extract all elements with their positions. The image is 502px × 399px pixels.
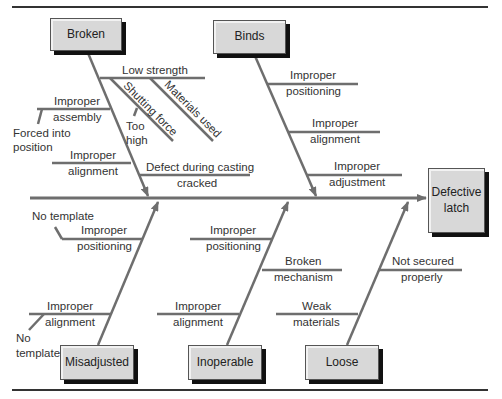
binds-alignment-2: alignment xyxy=(310,134,360,146)
cause-cracked: cracked xyxy=(177,178,217,190)
binds-positioning-1: Improper xyxy=(290,70,336,82)
binds-adjustment-2: adjustment xyxy=(329,177,385,189)
effect-box: Defective latch xyxy=(428,168,485,233)
category-binds: Binds xyxy=(213,20,286,54)
cause-low-strength: Low strength xyxy=(122,65,188,77)
loose-weak-1: Weak xyxy=(302,301,331,313)
loose-weak-2: materials xyxy=(293,317,340,329)
inoperable-alignment-1: Improper xyxy=(175,301,221,313)
category-loose: Loose xyxy=(305,345,379,380)
binds-alignment-1: Improper xyxy=(312,118,358,130)
misadjusted-no-template-bottom-2: template xyxy=(16,348,60,360)
category-binds-label: Binds xyxy=(234,29,264,45)
category-inoperable-label: Inoperable xyxy=(197,355,254,371)
cause-improper-alignment-1: Improper xyxy=(70,150,116,162)
loose-not-secured-1: Not secured xyxy=(392,256,454,268)
inoperable-broken-2: mechanism xyxy=(274,272,333,284)
fishbone-lines xyxy=(0,0,502,399)
binds-adjustment-1: Improper xyxy=(334,161,380,173)
category-inoperable: Inoperable xyxy=(188,345,262,380)
category-misadjusted-label: Misadjusted xyxy=(65,355,129,371)
misadjusted-alignment-2: alignment xyxy=(45,317,95,329)
cause-improper-assembly-1: Improper xyxy=(54,96,100,108)
inoperable-positioning-1: Improper xyxy=(210,225,256,237)
binds-positioning-2: positioning xyxy=(286,86,341,98)
cause-defect-during-casting: Defect during casting xyxy=(146,162,254,174)
effect-label: Defective latch xyxy=(428,185,484,216)
inoperable-positioning-2: positioning xyxy=(206,241,261,253)
misadjusted-no-template-top: No template xyxy=(32,211,94,223)
misadjusted-positioning-2: positioning xyxy=(77,241,132,253)
cause-improper-alignment-2: alignment xyxy=(68,166,118,178)
category-broken: Broken xyxy=(50,18,122,51)
misadjusted-positioning-1: Improper xyxy=(81,225,127,237)
cause-too-high-1: Too high xyxy=(126,119,154,148)
cause-forced-into-position: Forced into position xyxy=(13,127,73,155)
category-misadjusted: Misadjusted xyxy=(60,345,134,380)
category-loose-label: Loose xyxy=(326,355,359,371)
misadjusted-no-template-bottom-1: No xyxy=(16,333,31,345)
bone-loose xyxy=(347,202,408,345)
cause-improper-assembly-2: assembly xyxy=(53,112,102,124)
loose-not-secured-2: properly xyxy=(401,272,443,284)
inoperable-alignment-2: alignment xyxy=(173,317,223,329)
category-broken-label: Broken xyxy=(67,27,105,43)
inoperable-broken-1: Broken xyxy=(285,256,321,268)
misadjusted-alignment-1: Improper xyxy=(47,301,93,313)
